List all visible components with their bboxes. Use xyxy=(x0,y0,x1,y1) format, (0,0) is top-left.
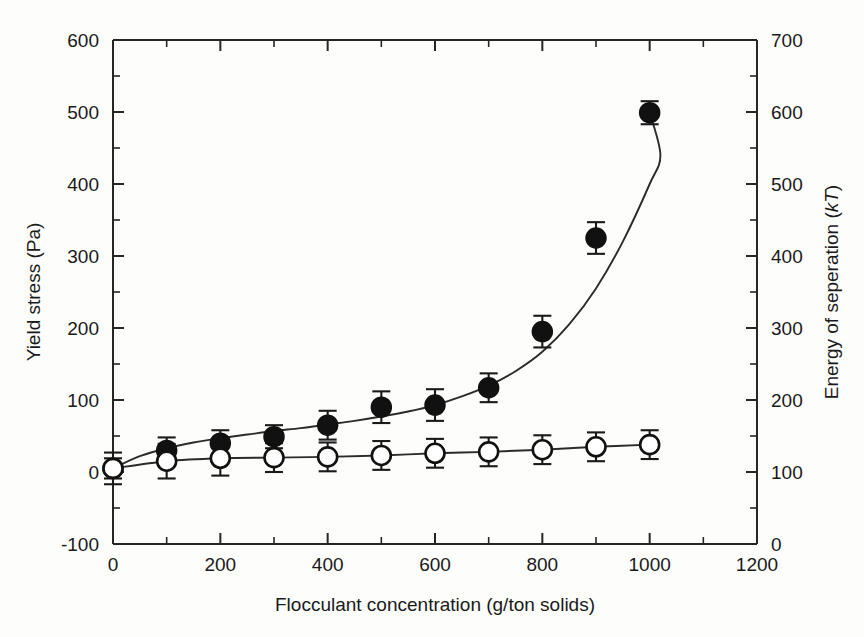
y-tick-label-left: 200 xyxy=(67,318,99,339)
y-tick-label-left: 0 xyxy=(88,462,99,483)
data-point-filled-circle xyxy=(264,427,284,447)
y-tick-label-left: 400 xyxy=(67,174,99,195)
y-tick-label-left: 300 xyxy=(67,246,99,267)
x-tick-label: 0 xyxy=(108,554,119,575)
data-point-open-circle xyxy=(318,447,337,466)
y-tick-label-right: 0 xyxy=(771,534,782,555)
data-point-filled-circle xyxy=(640,103,660,123)
data-point-open-circle xyxy=(587,437,606,456)
data-point-filled-circle xyxy=(371,397,391,417)
y-tick-label-right: 500 xyxy=(771,174,803,195)
data-point-open-circle xyxy=(104,459,123,478)
x-tick-label: 1200 xyxy=(736,554,778,575)
x-tick-label: 200 xyxy=(204,554,236,575)
data-point-filled-circle xyxy=(532,322,552,342)
chart-figure: 020040060080010001200-100010020030040050… xyxy=(0,0,864,637)
y-tick-label-right: 300 xyxy=(771,318,803,339)
data-point-filled-circle xyxy=(586,228,606,248)
y-tick-label-left: 600 xyxy=(67,30,99,51)
x-tick-label: 400 xyxy=(312,554,344,575)
x-tick-label: 1000 xyxy=(629,554,671,575)
y-tick-label-right: 200 xyxy=(771,390,803,411)
data-point-open-circle xyxy=(157,452,176,471)
data-point-open-circle xyxy=(372,446,391,465)
y-tick-label-left: 100 xyxy=(67,390,99,411)
x-tick-label: 800 xyxy=(526,554,558,575)
y-tick-label-right: 600 xyxy=(771,102,803,123)
data-point-open-circle xyxy=(640,435,659,454)
chart-canvas: 020040060080010001200-100010020030040050… xyxy=(0,0,864,637)
y-tick-label-right: 400 xyxy=(771,246,803,267)
data-point-open-circle xyxy=(426,444,445,463)
data-point-open-circle xyxy=(533,440,552,459)
y-axis-title-right: Energy of seperation (kT) xyxy=(821,185,842,399)
y-tick-label-right: 700 xyxy=(771,30,803,51)
data-point-filled-circle xyxy=(318,415,338,435)
y-tick-label-left: -100 xyxy=(61,534,99,555)
y-tick-label-right: 100 xyxy=(771,462,803,483)
x-axis-title: Flocculant concentration (g/ton solids) xyxy=(275,594,595,615)
y-axis-title-left: Yield stress (Pa) xyxy=(23,223,44,362)
data-point-open-circle xyxy=(211,449,230,468)
data-point-open-circle xyxy=(479,442,498,461)
x-tick-label: 600 xyxy=(419,554,451,575)
y-tick-label-left: 500 xyxy=(67,102,99,123)
data-point-filled-circle xyxy=(425,395,445,415)
data-point-filled-circle xyxy=(479,378,499,398)
data-point-open-circle xyxy=(265,448,284,467)
